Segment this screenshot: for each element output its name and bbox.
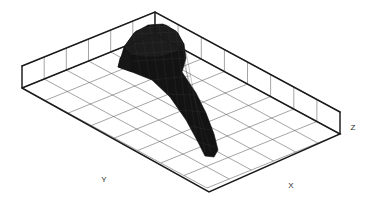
axis-label-x: X	[288, 181, 294, 190]
plot-canvas: Y X Z	[0, 0, 374, 220]
surface-plot-figure: Y X Z	[0, 0, 374, 220]
axis-label-z: Z	[351, 123, 356, 132]
axis-label-y: Y	[101, 175, 107, 184]
